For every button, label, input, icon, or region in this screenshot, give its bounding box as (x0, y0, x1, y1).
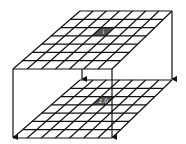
grid-planes-diagram: 2.0 i (0, 0, 186, 144)
lower-grid-plane: 2.0 (13, 80, 172, 138)
upper-grid-plane: i (13, 11, 172, 69)
